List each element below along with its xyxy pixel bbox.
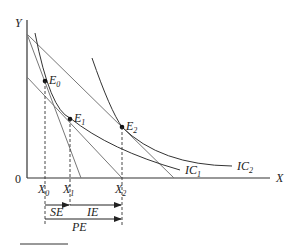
diagram-canvas: Y X 0 E0 E1 E2 IC1 IC2 X0 X1 X2 SE IE PE: [0, 0, 300, 248]
budget-line-compensated: [27, 77, 122, 178]
indifference-curve-2: [92, 58, 232, 166]
label-ic2: IC2: [236, 159, 253, 175]
origin-label: 0: [15, 172, 21, 186]
label-e0: E0: [48, 73, 60, 89]
label-ie: IE: [86, 205, 99, 219]
label-pe: PE: [71, 220, 87, 234]
label-se: SE: [50, 205, 64, 219]
label-ic1: IC1: [184, 163, 201, 179]
tick-x2: X2: [114, 182, 126, 198]
indifference-curve-1: [35, 33, 180, 170]
x-axis-label: X: [275, 171, 284, 185]
label-e2: E2: [125, 119, 137, 135]
tick-x1: X1: [62, 182, 74, 198]
tick-x0: X0: [37, 182, 49, 198]
label-e1: E1: [73, 111, 85, 127]
y-axis-label: Y: [15, 16, 23, 30]
budget-line-new: [27, 34, 174, 178]
